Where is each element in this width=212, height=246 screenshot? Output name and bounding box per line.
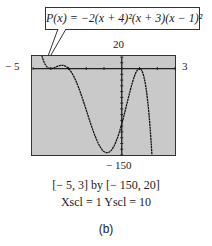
- function-curve: [42, 56, 152, 155]
- ymin-label: − 150: [106, 159, 131, 171]
- window-caption: [− 5, 3] by [− 150, 20]: [0, 178, 212, 193]
- plot-area: [32, 56, 177, 157]
- xmax-label: 3: [182, 60, 188, 72]
- scale-caption: Xscl = 1 Yscl = 10: [0, 195, 212, 210]
- calculator-screen: [31, 55, 176, 156]
- ymax-label: 20: [113, 38, 124, 50]
- xmin-label: − 5: [5, 60, 19, 72]
- part-label: (b): [0, 222, 212, 236]
